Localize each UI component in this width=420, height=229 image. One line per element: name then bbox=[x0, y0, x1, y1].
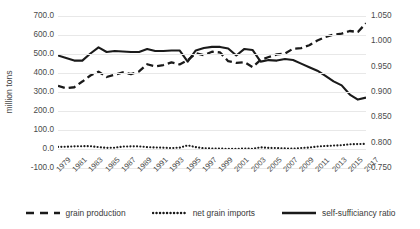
legend-swatch-dotted-icon bbox=[152, 208, 188, 218]
legend-swatch-solid-icon bbox=[281, 208, 317, 218]
y-axis-left-tick-label: 400.0 bbox=[34, 69, 55, 77]
y-axis-right-tick-label: 1.050 bbox=[371, 12, 392, 20]
gridline bbox=[58, 111, 366, 112]
series-line bbox=[58, 23, 366, 88]
legend-label: grain production bbox=[66, 208, 126, 218]
legend-item[interactable]: self-sufficiancy ratio bbox=[281, 208, 395, 218]
gridline bbox=[58, 16, 366, 17]
plot-area bbox=[58, 16, 366, 168]
y-axis-left-tick-label: 100.0 bbox=[34, 126, 55, 134]
y-axis-left-tick-label: 300.0 bbox=[34, 88, 55, 96]
legend-swatch-dashed-icon bbox=[25, 208, 61, 218]
chart-legend: grain productionnet grain importsself-su… bbox=[0, 200, 420, 226]
y-axis-left-tick-labels: -100.00.0100.0200.0300.0400.0500.0600.07… bbox=[0, 16, 54, 168]
y-axis-left-tick-label: -100.0 bbox=[31, 164, 54, 172]
x-axis-tick-labels: 1979198119831985198719891991199319951997… bbox=[58, 168, 366, 200]
legend-item[interactable]: net grain imports bbox=[152, 208, 255, 218]
legend-label: self-sufficiancy ratio bbox=[322, 208, 395, 218]
y-axis-right-tick-labels: 0.7500.8000.8500.9000.9501.0001.050 bbox=[371, 16, 419, 168]
chart-container: million tons -100.00.0100.0200.0300.0400… bbox=[0, 0, 420, 229]
y-axis-left-tick-label: 600.0 bbox=[34, 31, 55, 39]
gridline bbox=[58, 54, 366, 55]
y-axis-left-tick-label: 200.0 bbox=[34, 107, 55, 115]
gridline bbox=[58, 35, 366, 36]
gridline bbox=[58, 149, 366, 150]
y-axis-right-tick-label: 0.850 bbox=[371, 113, 392, 121]
y-axis-right-tick-label: 1.000 bbox=[371, 37, 392, 45]
gridline bbox=[58, 73, 366, 74]
gridline bbox=[58, 92, 366, 93]
y-axis-left-tick-label: 500.0 bbox=[34, 50, 55, 58]
gridline bbox=[58, 130, 366, 131]
y-axis-left-tick-label: 0.0 bbox=[43, 145, 54, 153]
y-axis-right-tick-label: 0.950 bbox=[371, 63, 392, 71]
y-axis-right-tick-label: 0.900 bbox=[371, 88, 392, 96]
y-axis-left-tick-label: 700.0 bbox=[34, 12, 55, 20]
y-axis-right-tick-label: 0.800 bbox=[371, 139, 392, 147]
legend-label: net grain imports bbox=[193, 208, 255, 218]
legend-item[interactable]: grain production bbox=[25, 208, 126, 218]
